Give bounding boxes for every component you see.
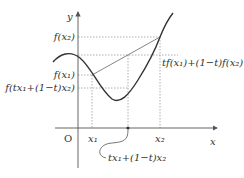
x1-label: x₁ (88, 133, 98, 144)
chord-line (92, 37, 160, 75)
chord-value-label: tf(x₁)+(1−t)f(x₂) (162, 57, 243, 68)
f-x2-label: f(x₂) (53, 31, 75, 42)
x-axis-label: x (210, 136, 216, 147)
mix-point-marker (126, 126, 129, 129)
f-mix-label: f(tx₁+(1−t)x₂) (4, 82, 75, 93)
mix-point-label: tx₁+(1−t)x₂ (108, 152, 166, 163)
guide-lines (78, 37, 178, 128)
convexity-diagram: y x O x₁ x₂ f(x₂) f(x₁) f(tx₁+(1−t)x₂) t… (0, 0, 244, 178)
y-axis-label: y (66, 11, 73, 22)
origin-label: O (64, 133, 72, 144)
f-x1-label: f(x₁) (53, 69, 75, 80)
x2-label: x₂ (155, 133, 165, 144)
